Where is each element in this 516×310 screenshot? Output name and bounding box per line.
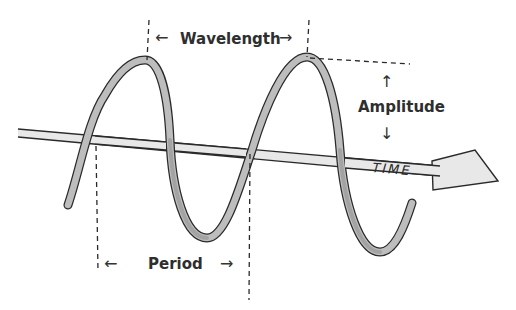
wavelength-left-arrow-icon: ← bbox=[155, 30, 168, 46]
time-arrowhead-icon bbox=[432, 150, 498, 190]
period-guide-left bbox=[96, 146, 98, 272]
wavelength-label: Wavelength bbox=[180, 30, 281, 48]
amplitude-guide bbox=[310, 58, 410, 64]
wave-diagram: TIME ← Wavelength → ↑ Amplitude ↓ ← Peri… bbox=[0, 0, 516, 310]
wavelength-guide-right bbox=[307, 20, 309, 57]
amplitude-label: Amplitude bbox=[358, 98, 445, 116]
wavelength-right-arrow-icon: → bbox=[279, 30, 292, 46]
amplitude-down-arrow-icon: ↓ bbox=[380, 126, 393, 142]
amplitude-up-arrow-icon: ↑ bbox=[380, 74, 393, 90]
wavelength-guide-left bbox=[147, 20, 149, 60]
period-guide-right bbox=[249, 154, 250, 300]
time-label: TIME bbox=[372, 160, 412, 178]
period-right-arrow-icon: → bbox=[220, 256, 233, 272]
period-left-arrow-icon: ← bbox=[104, 256, 117, 272]
period-label: Period bbox=[148, 255, 203, 273]
